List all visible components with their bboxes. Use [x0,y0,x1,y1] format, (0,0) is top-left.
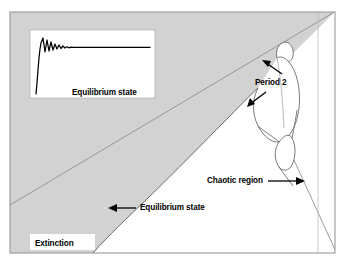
equilibrium-state-label: Equilibrium state [140,204,205,212]
inset-equilibrium-state-label: Equilibrium state [72,89,137,97]
extinction-label: Extinction [35,240,74,248]
figure-root: Period 2 Chaotic region Equilibrium stat… [0,0,345,265]
chaotic-region-label: Chaotic region [207,177,263,185]
bifurcation-diagram-svg [0,0,345,265]
period-2-label: Period 2 [255,79,287,87]
